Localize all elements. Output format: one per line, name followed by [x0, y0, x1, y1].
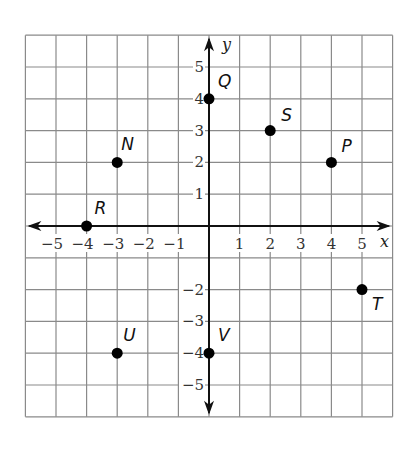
x-tick-label: −2 — [133, 235, 155, 253]
point-dot-icon — [265, 125, 276, 136]
point-dot-icon — [204, 348, 215, 359]
x-tick-label: 3 — [296, 235, 306, 253]
point-label: T — [372, 294, 384, 314]
x-tick-label: −4 — [72, 235, 94, 253]
y-tick-label: 2 — [194, 153, 204, 171]
point-label: N — [121, 134, 134, 154]
point-dot-icon — [112, 348, 123, 359]
point-dot-icon — [204, 93, 215, 104]
point-label: R — [95, 198, 107, 218]
x-tick-label: 1 — [235, 235, 245, 253]
x-tick-label: 4 — [327, 235, 337, 253]
y-tick-label: 5 — [194, 58, 204, 76]
coordinate-plane: −5−4−3−2−11234554321−2−3−4−5 QSNPRTUV x … — [0, 0, 416, 451]
y-tick-label: 3 — [194, 122, 204, 140]
x-tick-label: 5 — [357, 235, 367, 253]
point-t: T — [357, 284, 385, 314]
y-tick-label: 1 — [194, 185, 204, 203]
point-label: V — [218, 325, 231, 345]
point-p: P — [326, 136, 353, 168]
y-axis-label: y — [221, 35, 232, 54]
x-tick-label: 2 — [265, 235, 275, 253]
point-s: S — [265, 105, 293, 137]
y-tick-label: −2 — [182, 281, 204, 299]
x-tick-label: −5 — [41, 235, 63, 253]
x-tick-label: −3 — [102, 235, 124, 253]
x-axis-label: x — [380, 232, 389, 251]
y-tick-label: −4 — [182, 344, 204, 362]
x-tick-label: −1 — [163, 235, 185, 253]
point-dot-icon — [357, 284, 368, 295]
point-label: Q — [218, 71, 231, 91]
point-label: U — [123, 325, 136, 345]
plotted-points: QSNPRTUV — [81, 71, 384, 359]
point-dot-icon — [81, 221, 92, 232]
y-tick-label: −3 — [182, 312, 204, 330]
point-label: S — [281, 105, 292, 125]
point-dot-icon — [112, 157, 123, 168]
y-tick-label: 4 — [194, 90, 204, 108]
y-tick-label: −5 — [182, 376, 204, 394]
point-label: P — [341, 136, 352, 156]
point-dot-icon — [326, 157, 337, 168]
